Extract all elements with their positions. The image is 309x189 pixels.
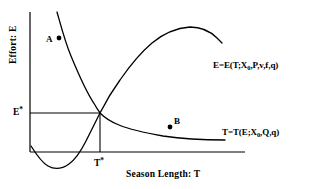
- point-b-label: B: [174, 117, 180, 126]
- y-axis-tick-label-e-star: E*: [13, 106, 23, 117]
- x-axis-label: Season Length: T: [126, 170, 200, 180]
- season-length-curve-label: T=T(E;X0,Q,q): [222, 128, 279, 138]
- y-axis-label: Effort: E: [9, 14, 19, 76]
- x-axis-tick-label-t-star: T*: [94, 157, 104, 168]
- plot-canvas: [0, 0, 309, 189]
- effort-curve-label: E=E(T;X0,P,v,f,q): [213, 61, 278, 71]
- figure-container: Effort: E Season Length: T E* T* A B E=E…: [0, 0, 309, 189]
- point-b-marker: [168, 125, 173, 130]
- effort-curve: [31, 27, 222, 168]
- season-length-curve: [57, 12, 225, 140]
- point-a-marker: [57, 36, 62, 41]
- point-a-label: A: [46, 35, 53, 44]
